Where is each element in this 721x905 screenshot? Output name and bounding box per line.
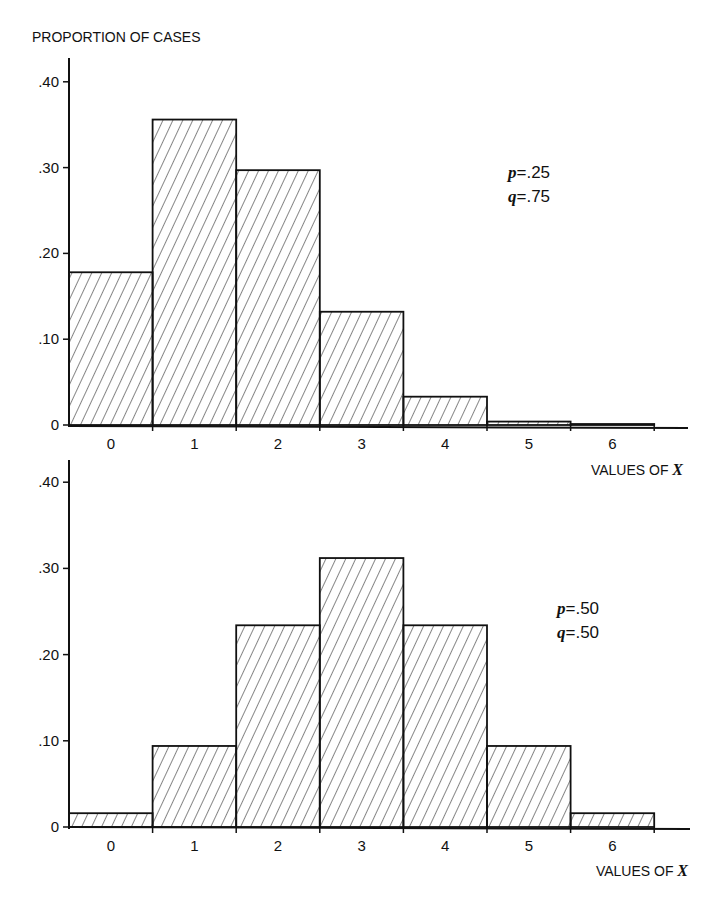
histogram-bar <box>236 170 320 425</box>
bottom-x-axis-title: VALUES OF X <box>596 862 688 879</box>
top-x-axis <box>69 426 688 428</box>
histogram-bar <box>236 625 320 827</box>
x-tick-label: 1 <box>190 435 198 452</box>
y-tick-label: .30 <box>38 559 59 576</box>
x-tick-label: 0 <box>107 837 115 854</box>
bottom-x-ticks: 0123456 <box>107 827 655 854</box>
top-x-axis-title: VALUES OF X <box>591 461 683 478</box>
bottom-q-annotation: q=.50 <box>557 623 599 642</box>
histogram-bar <box>320 558 404 827</box>
top-q-annotation: q=.75 <box>508 187 550 206</box>
y-tick-label: .40 <box>38 73 59 90</box>
bottom-y-ticks: 0.10.20.30.40 <box>38 473 69 835</box>
y-tick-label: 0 <box>51 818 59 835</box>
x-tick-label: 2 <box>274 435 282 452</box>
x-tick-label: 6 <box>608 435 616 452</box>
bottom-p-annotation: p=.50 <box>555 599 599 618</box>
x-tick-label: 4 <box>441 837 449 854</box>
top-chart: PROPORTION OF CASES 0.10.20.30.40 012345… <box>32 29 688 478</box>
y-tick-label: .30 <box>38 159 59 176</box>
y-tick-label: .20 <box>38 646 59 663</box>
top-y-ticks: 0.10.20.30.40 <box>38 73 69 433</box>
histogram-bar <box>487 746 571 827</box>
histogram-bar <box>571 813 655 827</box>
y-tick-label: 0 <box>51 416 59 433</box>
histogram-bar <box>403 397 487 425</box>
top-p-annotation: p=.25 <box>506 163 550 182</box>
y-axis-title: PROPORTION OF CASES <box>32 29 201 45</box>
histogram-bar <box>153 120 237 425</box>
x-tick-label: 1 <box>190 837 198 854</box>
binomial-histograms: PROPORTION OF CASES 0.10.20.30.40 012345… <box>0 0 721 905</box>
histogram-bar <box>69 813 153 827</box>
top-x-ticks: 0123456 <box>107 425 655 452</box>
histogram-bar <box>320 312 404 425</box>
x-tick-label: 5 <box>525 837 533 854</box>
histogram-bar <box>571 424 655 425</box>
histogram-bar <box>403 625 487 827</box>
bottom-chart: 0.10.20.30.40 0123456 VALUES OF X p=.50 … <box>38 460 690 879</box>
x-tick-label: 6 <box>608 837 616 854</box>
y-tick-label: .20 <box>38 244 59 261</box>
y-tick-label: .10 <box>38 732 59 749</box>
x-tick-label: 5 <box>525 435 533 452</box>
histogram-bar <box>153 746 237 827</box>
top-bars <box>69 120 654 425</box>
histogram-bar <box>69 272 153 425</box>
x-tick-label: 3 <box>357 435 365 452</box>
x-tick-label: 2 <box>274 837 282 854</box>
y-tick-label: .40 <box>38 473 59 490</box>
x-tick-label: 0 <box>107 435 115 452</box>
histogram-bar <box>487 422 571 425</box>
y-tick-label: .10 <box>38 330 59 347</box>
x-tick-label: 3 <box>357 837 365 854</box>
x-tick-label: 4 <box>441 435 449 452</box>
